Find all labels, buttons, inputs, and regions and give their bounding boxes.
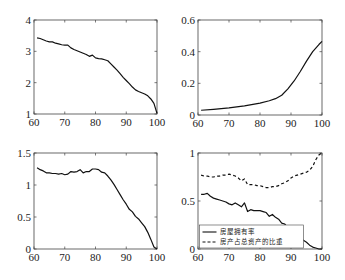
x-tick-label: 100: [149, 116, 166, 128]
y-tick-label: 1: [26, 108, 32, 120]
y-tick-label: 2: [26, 77, 32, 89]
x-tick-label: 80: [90, 251, 102, 263]
axes-frame: [34, 20, 157, 114]
panel-bottom-right: 6070809010000.51房屋拥有率房产占总资产的比重: [181, 147, 331, 263]
legend-label: 房产占总资产的比重: [220, 237, 283, 246]
series-line-solid: [37, 38, 157, 114]
panel-top-right: 6070809010000.20.40.6: [181, 14, 331, 129]
y-tick-label: 0.5: [17, 211, 31, 223]
series-line-dashed: [201, 153, 322, 188]
y-tick-label: 1: [26, 179, 32, 191]
y-tick-label: 0.5: [181, 195, 195, 207]
y-tick-label: 4: [26, 14, 32, 26]
x-tick-label: 80: [90, 116, 102, 128]
y-tick-label: 0: [26, 243, 32, 255]
y-tick-label: 1: [190, 147, 196, 159]
x-tick-label: 90: [121, 116, 133, 128]
y-tick-label: 0.6: [181, 14, 195, 26]
panel-top-left: 607080901001234: [26, 14, 166, 128]
x-tick-label: 100: [149, 251, 166, 263]
x-tick-label: 90: [286, 251, 298, 263]
y-tick-label: 3: [26, 45, 32, 57]
legend-label: 房屋拥有率: [220, 227, 255, 236]
legend: 房屋拥有率房产占总资产的比重: [200, 225, 304, 248]
x-tick-label: 70: [224, 251, 236, 263]
y-tick-label: 0.4: [181, 46, 195, 58]
panel-bottom-left: 6070809010000.511.5: [17, 147, 166, 263]
series-line-solid: [37, 168, 157, 249]
x-tick-label: 70: [224, 117, 236, 129]
x-tick-label: 100: [314, 251, 331, 263]
axes-frame: [34, 153, 157, 249]
x-tick-label: 90: [121, 251, 133, 263]
series-line-solid: [201, 41, 322, 110]
x-tick-label: 70: [59, 116, 71, 128]
axes-frame: [198, 20, 322, 115]
y-tick-label: 0: [190, 109, 196, 121]
x-tick-label: 90: [286, 117, 298, 129]
y-tick-label: 0: [190, 243, 196, 255]
x-tick-label: 100: [314, 117, 331, 129]
x-tick-label: 80: [255, 117, 267, 129]
x-tick-label: 70: [59, 251, 71, 263]
x-tick-label: 80: [255, 251, 267, 263]
y-tick-label: 0.2: [181, 77, 195, 89]
figure: 607080901001234 6070809010000.20.40.6 60…: [0, 0, 345, 280]
y-tick-label: 1.5: [17, 147, 31, 159]
